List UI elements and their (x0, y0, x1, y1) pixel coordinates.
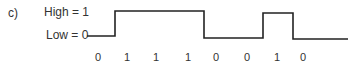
bit-value: 0 (93, 52, 103, 63)
bit-value: 0 (242, 52, 252, 63)
bit-value: 0 (211, 52, 221, 63)
bit-value: 1 (151, 52, 161, 63)
bit-value: 1 (122, 52, 132, 63)
bit-value: 0 (298, 52, 308, 63)
bit-value: 1 (183, 52, 193, 63)
bit-value: 1 (272, 52, 282, 63)
